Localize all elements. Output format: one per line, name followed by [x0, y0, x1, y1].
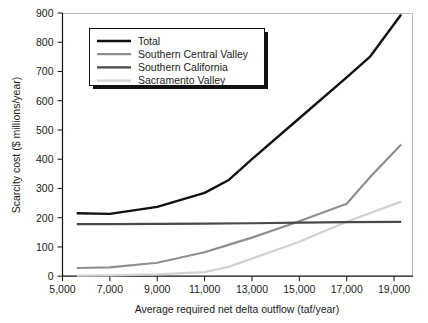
- y-tick-label: 100: [36, 241, 54, 253]
- y-tick-label: 800: [36, 36, 54, 48]
- y-tick-label: 900: [36, 7, 54, 19]
- x-axis-title: Average required net delta outflow (taf/…: [135, 303, 340, 315]
- legend-label-total: Total: [138, 35, 160, 47]
- x-tick-label: 9,000: [144, 283, 170, 295]
- y-tick-label: 200: [36, 212, 54, 224]
- x-tick-label: 5,000: [49, 283, 75, 295]
- y-tick-label: 0: [48, 270, 54, 282]
- legend-label-southern-central-valley: Southern Central Valley: [138, 48, 249, 60]
- x-tick-label: 19,000: [378, 283, 410, 295]
- y-axis-title: Scarcity cost ($ millions/year): [10, 77, 22, 214]
- x-axis-ticks: 5,0007,0009,00011,00013,00015,00017,0001…: [49, 276, 410, 295]
- y-axis-ticks: 0100200300400500600700800900: [36, 7, 63, 282]
- x-tick-label: 13,000: [236, 283, 268, 295]
- y-tick-label: 500: [36, 124, 54, 136]
- x-tick-label: 17,000: [331, 283, 363, 295]
- y-tick-label: 300: [36, 182, 54, 194]
- y-tick-label: 400: [36, 153, 54, 165]
- y-tick-label: 600: [36, 95, 54, 107]
- chart-figure: 0100200300400500600700800900 5,0007,0009…: [0, 0, 428, 323]
- y-tick-label: 700: [36, 65, 54, 77]
- x-tick-label: 7,000: [97, 283, 123, 295]
- x-tick-label: 11,000: [189, 283, 220, 295]
- chart-legend: TotalSouthern Central ValleySouthern Cal…: [90, 29, 269, 90]
- scarcity-cost-line-chart: 0100200300400500600700800900 5,0007,0009…: [0, 0, 428, 323]
- legend-label-southern-california: Southern California: [138, 61, 228, 73]
- x-tick-label: 15,000: [283, 283, 315, 295]
- legend-label-sacramento-valley: Sacramento Valley: [138, 74, 226, 86]
